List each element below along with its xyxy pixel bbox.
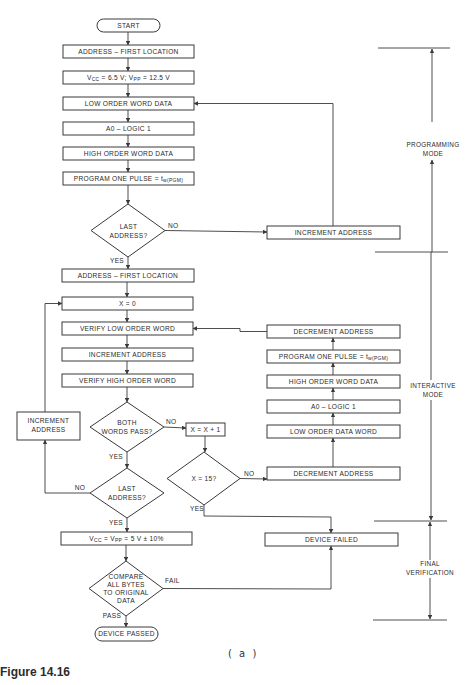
- svg-text:INTERACTIVE: INTERACTIVE: [410, 382, 456, 389]
- svg-text:COMPARE: COMPARE: [109, 573, 144, 580]
- svg-text:VERIFICATION: VERIFICATION: [406, 569, 454, 576]
- step-a0-logic-1-interactive: A0 – LOGIC 1: [267, 400, 400, 413]
- svg-text:LOW ORDER WORD DATA: LOW ORDER WORD DATA: [85, 100, 173, 107]
- svg-text:PROGRAM ONE PULSE = tw(PGM): PROGRAM ONE PULSE = tw(PGM): [279, 353, 388, 361]
- step-a0-logic-1: A0 – LOGIC 1: [63, 122, 194, 135]
- svg-text:FINAL: FINAL: [420, 560, 440, 567]
- svg-text:INCREMENT ADDRESS: INCREMENT ADDRESS: [89, 351, 167, 358]
- svg-text:X = 0: X = 0: [119, 300, 136, 307]
- svg-text:ADDRESS – FIRST LOCATION: ADDRESS – FIRST LOCATION: [78, 272, 178, 279]
- svg-text:LAST: LAST: [120, 223, 138, 230]
- svg-text:LAST: LAST: [118, 485, 136, 492]
- step-high-order-word-data: HIGH ORDER WORD DATA: [63, 147, 194, 160]
- svg-text:TO ORIGINAL: TO ORIGINAL: [103, 589, 149, 596]
- start-terminal: START: [97, 19, 160, 32]
- edge-label-pass: PASS: [103, 612, 122, 619]
- figure-sublabel: ( a ): [228, 648, 258, 659]
- svg-text:DEVICE PASSED: DEVICE PASSED: [98, 630, 155, 637]
- edge-label-no: NO: [168, 222, 179, 229]
- svg-text:X = 15?: X = 15?: [191, 475, 216, 482]
- svg-text:MODE: MODE: [423, 150, 443, 157]
- svg-text:HIGH ORDER WORD DATA: HIGH ORDER WORD DATA: [289, 378, 379, 385]
- decision-compare-all-bytes: COMPARE ALL BYTES TO ORIGINAL DATA: [89, 561, 163, 616]
- step-low-order-data-word: LOW ORDER DATA WORD: [267, 425, 400, 438]
- svg-text:VCC = 6.5 V; VPP = 12.5 V: VCC = 6.5 V; VPP = 12.5 V: [87, 74, 170, 82]
- svg-text:ADDRESS: ADDRESS: [32, 426, 66, 433]
- edge-label-no: NO: [75, 484, 86, 491]
- step-low-order-word-data: LOW ORDER WORD DATA: [63, 97, 194, 110]
- svg-text:A0 – LOGIC 1: A0 – LOGIC 1: [106, 125, 151, 132]
- svg-text:HIGH ORDER WORD DATA: HIGH ORDER WORD DATA: [84, 150, 174, 157]
- step-program-one-pulse-interactive: PROGRAM ONE PULSE = tw(PGM): [267, 350, 400, 363]
- svg-text:DECREMENT ADDRESS: DECREMENT ADDRESS: [293, 328, 373, 335]
- figure-caption: Figure 14.16: [0, 665, 70, 679]
- svg-text:LOW ORDER DATA WORD: LOW ORDER DATA WORD: [290, 428, 377, 435]
- mode-label-final-verification: FINAL VERIFICATION: [406, 560, 454, 576]
- svg-text:MODE: MODE: [423, 391, 443, 398]
- edge-label-yes: YES: [109, 453, 123, 460]
- step-address-first-location: ADDRESS – FIRST LOCATION: [63, 45, 194, 58]
- step-verify-low-order-word: VERIFY LOW ORDER WORD: [62, 322, 193, 335]
- svg-text:X = X + 1: X = X + 1: [190, 426, 220, 433]
- svg-text:PROGRAMMING: PROGRAMMING: [406, 141, 459, 148]
- mode-label-programming: PROGRAMMING MODE: [406, 141, 459, 157]
- edge-label-fail: FAIL: [165, 577, 180, 584]
- svg-text:WORDS PASS?: WORDS PASS?: [101, 428, 152, 435]
- svg-text:START: START: [117, 22, 140, 29]
- step-set-verify-voltages: VCC = VPP = 5 V ± 10%: [61, 532, 192, 545]
- decision-last-address-programming: LAST ADDRESS?: [91, 204, 165, 257]
- decision-last-address-verify: LAST ADDRESS?: [90, 468, 164, 518]
- decision-x-equals-15: X = 15?: [167, 452, 240, 505]
- svg-text:VERIFY LOW ORDER WORD: VERIFY LOW ORDER WORD: [80, 325, 175, 332]
- svg-text:VERIFY HIGH ORDER WORD: VERIFY HIGH ORDER WORD: [79, 377, 176, 384]
- device-passed-terminal: DEVICE PASSED: [95, 627, 158, 641]
- flowchart: START ADDRESS – FIRST LOCATION VCC = 6.5…: [0, 0, 476, 685]
- step-increment-address-programming: INCREMENT ADDRESS: [267, 226, 400, 239]
- edge-label-yes: YES: [110, 257, 124, 264]
- edge-label-no: NO: [244, 470, 255, 477]
- step-x-plus-1: X = X + 1: [186, 423, 225, 436]
- svg-text:PROGRAM ONE PULSE = tw(PGM): PROGRAM ONE PULSE = tw(PGM): [74, 175, 183, 183]
- edge-label-yes: YES: [190, 505, 204, 512]
- step-high-order-word-data-interactive: HIGH ORDER WORD DATA: [267, 375, 400, 388]
- svg-text:ADDRESS – FIRST LOCATION: ADDRESS – FIRST LOCATION: [78, 48, 178, 55]
- step-increment-address-left: INCREMENT ADDRESS: [17, 412, 80, 440]
- step-decrement-address-bottom: DECREMENT ADDRESS: [267, 467, 400, 480]
- svg-text:DATA: DATA: [117, 597, 135, 604]
- svg-text:BOTH: BOTH: [117, 419, 137, 426]
- mode-label-interactive: INTERACTIVE MODE: [410, 382, 456, 398]
- step-x-equals-zero: X = 0: [62, 297, 193, 310]
- svg-text:ADDRESS?: ADDRESS?: [110, 232, 148, 239]
- svg-text:DECREMENT ADDRESS: DECREMENT ADDRESS: [293, 470, 373, 477]
- step-decrement-address-top: DECREMENT ADDRESS: [267, 325, 400, 338]
- svg-text:INCREMENT ADDRESS: INCREMENT ADDRESS: [295, 229, 373, 236]
- svg-text:ADDRESS?: ADDRESS?: [108, 494, 146, 501]
- svg-text:ALL BYTES: ALL BYTES: [107, 581, 145, 588]
- step-program-one-pulse: PROGRAM ONE PULSE = tw(PGM): [63, 172, 194, 185]
- step-increment-address: INCREMENT ADDRESS: [62, 348, 193, 361]
- decision-both-words-pass: BOTH WORDS PASS?: [90, 402, 164, 452]
- edge-label-no: NO: [166, 418, 177, 425]
- step-verify-high-order-word: VERIFY HIGH ORDER WORD: [62, 374, 193, 387]
- step-address-first-location-verify: ADDRESS – FIRST LOCATION: [62, 269, 194, 282]
- svg-text:INCREMENT: INCREMENT: [28, 417, 70, 424]
- edge-label-yes: YES: [109, 519, 123, 526]
- device-failed-box: DEVICE FAILED: [265, 533, 398, 546]
- svg-text:A0 – LOGIC 1: A0 – LOGIC 1: [311, 403, 356, 410]
- step-set-programming-voltages: VCC = 6.5 V; VPP = 12.5 V: [63, 71, 194, 84]
- svg-text:DEVICE FAILED: DEVICE FAILED: [305, 536, 358, 543]
- svg-text:VCC = VPP = 5 V ± 10%: VCC = VPP = 5 V ± 10%: [89, 535, 163, 543]
